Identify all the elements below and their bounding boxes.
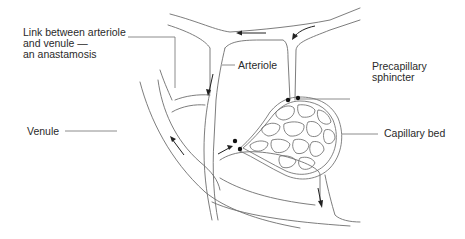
anastomosis-leader-line bbox=[128, 37, 175, 88]
precapillary-sphincter-label: Precapillary sphincter bbox=[372, 61, 427, 83]
anastomosis-vessel-top bbox=[175, 95, 210, 100]
sphincter-dot-top-left bbox=[286, 98, 290, 102]
lower-vessel-bottom bbox=[220, 178, 315, 205]
capillary-bed-label: Capillary bed bbox=[384, 128, 445, 139]
lower-vessel-extension bbox=[212, 202, 350, 226]
right-vessel-down bbox=[325, 175, 360, 222]
sphincter-dot-top-right bbox=[296, 96, 300, 100]
anastomosis-left-wall bbox=[160, 70, 172, 100]
arteriole-main-right-wall bbox=[204, 92, 212, 220]
anastomosis-vessel-bottom bbox=[172, 105, 205, 112]
arteriole-top-outer-wall bbox=[170, 8, 360, 32]
venule-outer-wall bbox=[140, 82, 300, 228]
capillary-cells bbox=[250, 105, 335, 170]
anastomosis-label: Link between arteriole and venule — an a… bbox=[23, 27, 126, 60]
arteriole-main-left-wall bbox=[213, 48, 225, 220]
arteriole-label: Arteriole bbox=[238, 60, 277, 71]
flow-arrow-anastomosis bbox=[206, 74, 213, 96]
lower-vessel-top bbox=[220, 152, 320, 200]
flow-arrow-into-capillary bbox=[218, 145, 233, 154]
capillary-bed-inner-outline bbox=[243, 101, 336, 174]
flow-arrow-lower-right bbox=[318, 188, 323, 208]
arteriole-right-branch bbox=[295, 20, 360, 100]
arteriole-top-inner-wall bbox=[168, 25, 210, 92]
sphincter-dot-bottom-left bbox=[233, 139, 237, 143]
flow-arrow-venule bbox=[170, 136, 184, 155]
flow-arrow-top-left bbox=[236, 31, 266, 36]
sphincter-dot-bottom-right bbox=[238, 147, 242, 151]
venule-inner-wall bbox=[158, 80, 220, 190]
venule-label: Venule bbox=[27, 126, 59, 137]
